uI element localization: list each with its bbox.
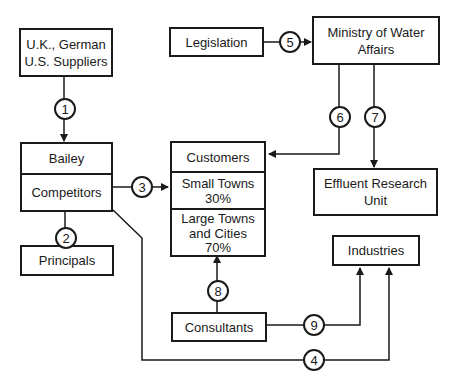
legislation-label: Legislation — [185, 34, 247, 51]
bailey-segment: Bailey — [22, 144, 111, 173]
link-8-marker: 8 — [207, 280, 229, 302]
consultants-label: Consultants — [185, 319, 254, 336]
small-towns-label: Small Towns — [182, 176, 255, 191]
large-towns-segment: Large Towns and Cities 70% — [172, 208, 264, 255]
bailey-competitors-box: Bailey Competitors — [20, 142, 113, 212]
link-6-marker: 6 — [329, 106, 351, 128]
competitors-segment: Competitors — [22, 173, 111, 210]
small-towns-share: 30% — [205, 191, 231, 206]
large-towns-label-line2: and Cities — [189, 226, 247, 241]
legislation-box: Legislation — [169, 27, 264, 57]
bailey-label: Bailey — [49, 150, 84, 167]
link-5-marker: 5 — [279, 31, 301, 53]
link-8-number: 8 — [214, 285, 221, 298]
customers-box: Customers Small Towns 30% Large Towns an… — [170, 141, 266, 257]
ministry-label-line2: Affairs — [358, 41, 395, 58]
link-9-marker: 9 — [303, 314, 325, 336]
ministry-box: Ministry of Water Affairs — [312, 16, 440, 65]
ministry-label-line1: Ministry of Water — [327, 24, 424, 41]
link-7-marker: 7 — [364, 106, 386, 128]
consultants-box: Consultants — [171, 312, 267, 342]
link-3-marker: 3 — [131, 176, 153, 198]
customers-header-segment: Customers — [172, 143, 264, 171]
link-2-number: 2 — [62, 232, 69, 245]
link-5-number: 5 — [286, 36, 293, 49]
link-1-marker: 1 — [54, 98, 76, 120]
effluent-label-line1: Effluent Research — [324, 175, 427, 192]
link-9-number: 9 — [310, 319, 317, 332]
small-towns-segment: Small Towns 30% — [172, 171, 264, 208]
industries-box: Industries — [332, 235, 420, 266]
suppliers-label-line1: U.K., German — [26, 36, 105, 53]
principals-label: Principals — [39, 252, 95, 269]
link-7-number: 7 — [371, 111, 378, 124]
link-2-marker: 2 — [55, 227, 77, 249]
large-towns-label-line1: Large Towns — [181, 211, 254, 226]
principals-box: Principals — [20, 245, 114, 276]
link-1-number: 1 — [61, 103, 68, 116]
large-towns-share: 70% — [205, 241, 231, 254]
suppliers-label-line2: U.S. Suppliers — [24, 53, 107, 70]
link-6-number: 6 — [336, 111, 343, 124]
customers-label: Customers — [187, 150, 250, 165]
link-3-number: 3 — [138, 181, 145, 194]
suppliers-box: U.K., German U.S. Suppliers — [19, 28, 113, 77]
effluent-label-line2: Unit — [364, 192, 387, 209]
competitors-label: Competitors — [31, 184, 101, 201]
link-4-number: 4 — [310, 354, 317, 367]
effluent-research-box: Effluent Research Unit — [313, 168, 438, 216]
industries-label: Industries — [348, 242, 404, 259]
link-4-marker: 4 — [303, 349, 325, 371]
